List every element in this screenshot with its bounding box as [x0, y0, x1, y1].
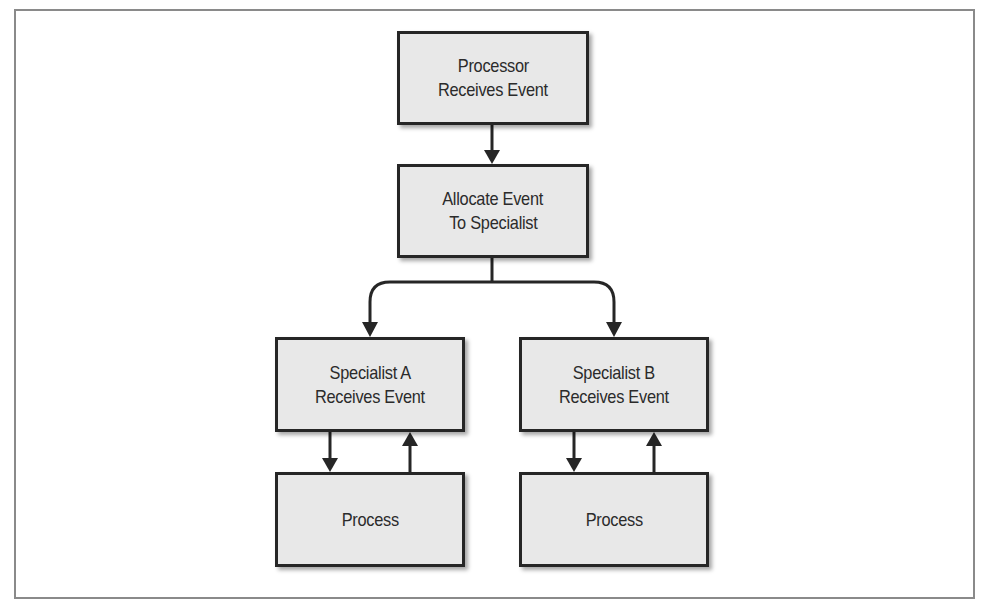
node-processor-receives-event: Processor Receives Event — [397, 31, 589, 125]
node-label-line: Receives Event — [559, 385, 669, 409]
node-label-line: Specialist B — [573, 361, 655, 385]
node-label-line: Specialist A — [329, 361, 410, 385]
node-label-line: To Specialist — [449, 211, 537, 235]
node-label-line: Process — [585, 508, 642, 532]
node-specialist-b: Specialist B Receives Event — [519, 337, 709, 432]
node-label-line: Receives Event — [315, 385, 425, 409]
node-label-line: Allocate Event — [443, 187, 544, 211]
node-specialist-a: Specialist A Receives Event — [275, 337, 465, 432]
node-process-a: Process — [275, 472, 465, 567]
node-label-line: Receives Event — [438, 78, 548, 102]
node-label-line: Process — [341, 508, 398, 532]
node-label-line: Processor — [457, 54, 528, 78]
node-process-b: Process — [519, 472, 709, 567]
node-allocate-event: Allocate Event To Specialist — [397, 164, 589, 258]
